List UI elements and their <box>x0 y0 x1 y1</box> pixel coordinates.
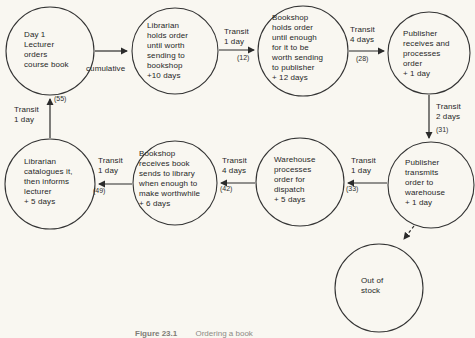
edge-label-bookshop-to-publisher: Transit 4 days <box>350 25 375 45</box>
node-label-publisher-transmits: Publisher transmits order to warehouse +… <box>405 158 445 208</box>
node-label-bookshop-holds: Bookshop holds order until enough for it… <box>272 13 323 83</box>
edge-count-bookshop-to-librarian: (49) <box>93 187 105 195</box>
edge-count-bookshop-to-publisher: (28) <box>356 55 368 63</box>
node-label-librarian-catalogues: Librarian catalogues it, then informs le… <box>24 157 73 207</box>
edge-label-warehouse-to-bookshop: Transit 4 days <box>222 156 247 176</box>
edge-count-librarian-to-bookshop: (12) <box>237 54 249 62</box>
node-label-lecturer-orders: Day 1 Lecturer orders course book <box>24 30 69 70</box>
edge-count-receives-to-transmits: (31) <box>436 126 448 134</box>
node-label-bookshop-receives: Bookshop receives book sends to library … <box>139 149 200 209</box>
edge-label-transmits-to-warehouse: Transit 1 day <box>351 156 376 176</box>
edge-count-warehouse-to-bookshop: (42) <box>220 185 232 193</box>
node-label-publisher-receives: Publisher receives and processes order +… <box>403 29 450 79</box>
figure-caption-text: Ordering a book <box>195 329 252 338</box>
edge-count-transmits-to-warehouse: (33) <box>346 185 358 193</box>
edge-label-cumulative: cumulative <box>86 64 125 74</box>
edge-label-librarian-to-lecturer: Transit 1 day <box>14 105 39 125</box>
figure-caption: Figure 23.1 Ordering a book <box>135 329 253 338</box>
edge-arrow-transmits-to-out-of-stock <box>404 226 414 239</box>
node-label-warehouse-processes: Warehouse processes order for dispatch +… <box>274 155 316 205</box>
edge-count-librarian-to-lecturer: (55) <box>54 95 66 103</box>
figure-caption-number: Figure 23.1 <box>135 329 177 338</box>
edge-label-librarian-to-bookshop: Transit 1 day <box>224 27 249 47</box>
node-label-librarian-holds: Librarian holds order until worth sendin… <box>147 21 188 81</box>
edge-label-receives-to-transmits: Transit 2 days <box>436 102 461 122</box>
edge-label-bookshop-to-librarian: Transit 1 day <box>98 156 123 176</box>
figure-page: Day 1 Lecturer orders course book Librar… <box>0 0 475 338</box>
node-label-out-of-stock: Out of stock <box>361 276 383 296</box>
